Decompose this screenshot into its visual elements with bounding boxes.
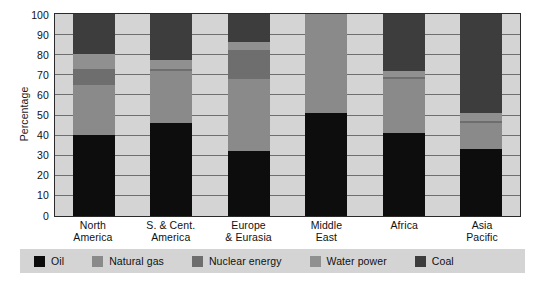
bar-segment-water-power[interactable] [228, 42, 270, 50]
bar-segment-natural-gas[interactable] [460, 123, 502, 149]
x-axis-tick-label-line [365, 232, 443, 244]
bar-group [55, 14, 520, 216]
bar-segment-natural-gas[interactable] [228, 79, 270, 152]
bar-segment-nuclear-energy[interactable] [228, 50, 270, 78]
legend-label: Water power [327, 255, 387, 267]
x-axis-tick-label: NorthAmerica [54, 220, 132, 243]
legend-item-oil[interactable]: Oil [34, 255, 64, 267]
bar-slot [365, 14, 443, 216]
legend-swatch-icon [34, 256, 45, 267]
x-axis-tick-label: S. & Cent.America [132, 220, 210, 243]
x-axis-tick-label-line: & Eurasia [210, 232, 288, 244]
bar-segment-water-power[interactable] [460, 113, 502, 121]
stacked-bar[interactable] [150, 14, 192, 216]
bar-slot [55, 14, 133, 216]
y-axis-tick-label: 0 [3, 210, 49, 222]
bar-slot [443, 14, 521, 216]
stacked-bar[interactable] [228, 14, 270, 216]
bar-segment-oil[interactable] [460, 149, 502, 216]
legend-label: Nuclear energy [209, 255, 282, 267]
x-axis-tick-label-line: America [132, 232, 210, 244]
x-axis-tick-labels: NorthAmericaS. & Cent.AmericaEurope& Eur… [54, 220, 521, 243]
bar-segment-oil[interactable] [228, 151, 270, 216]
bar-segment-oil[interactable] [73, 135, 115, 216]
plot-area [54, 13, 521, 217]
y-axis-tick-labels: 0102030405060708090100 [0, 13, 49, 217]
bar-slot [288, 14, 366, 216]
bar-segment-coal[interactable] [150, 14, 192, 60]
stacked-bar[interactable] [73, 14, 115, 216]
legend-swatch-icon [92, 256, 103, 267]
x-axis-tick-label-line: America [54, 232, 132, 244]
legend-item-coal[interactable]: Coal [415, 255, 454, 267]
bar-segment-coal[interactable] [460, 14, 502, 113]
legend-swatch-icon [192, 256, 203, 267]
bar-segment-oil[interactable] [383, 133, 425, 216]
bar-segment-natural-gas[interactable] [383, 79, 425, 134]
y-axis-tick-label: 100 [3, 9, 49, 21]
legend-item-water-power[interactable]: Water power [310, 255, 387, 267]
bar-segment-oil[interactable] [305, 113, 347, 216]
y-axis-tick-label: 50 [3, 109, 49, 121]
y-axis-tick-label: 60 [3, 89, 49, 101]
y-axis-tick-label: 70 [3, 69, 49, 81]
y-axis-tick-label: 90 [3, 29, 49, 41]
legend-label: Natural gas [109, 255, 164, 267]
bar-segment-water-power[interactable] [73, 54, 115, 68]
x-axis-tick-label-line: North [54, 220, 132, 232]
x-axis-tick-label-line: East [287, 232, 365, 244]
y-axis-tick-label: 80 [3, 49, 49, 61]
bar-segment-coal[interactable] [73, 14, 115, 54]
legend-swatch-icon [415, 256, 426, 267]
stacked-bar-chart: Percentage 0102030405060708090100 NorthA… [0, 0, 541, 286]
y-axis-tick-label: 20 [3, 169, 49, 181]
bar-segment-oil[interactable] [150, 123, 192, 216]
bar-slot [133, 14, 211, 216]
bar-segment-water-power[interactable] [150, 60, 192, 68]
stacked-bar[interactable] [460, 14, 502, 216]
x-axis-tick-label-line: Middle [287, 220, 365, 232]
x-axis-tick-label: MiddleEast [287, 220, 365, 243]
x-axis-tick-label: Africa [365, 220, 443, 243]
bar-slot [210, 14, 288, 216]
bar-segment-natural-gas[interactable] [73, 85, 115, 136]
legend-item-nuclear-energy[interactable]: Nuclear energy [192, 255, 282, 267]
bar-segment-natural-gas[interactable] [150, 71, 192, 124]
x-axis-tick-label-line: Africa [365, 220, 443, 232]
x-axis-tick-label-line: Europe [210, 220, 288, 232]
legend-label: Oil [51, 255, 64, 267]
bar-segment-natural-gas[interactable] [305, 14, 347, 113]
y-axis-tick-label: 30 [3, 149, 49, 161]
x-axis-tick-label: Europe& Eurasia [210, 220, 288, 243]
x-axis-tick-label: AsiaPacific [443, 220, 521, 243]
x-axis-tick-label-line: S. & Cent. [132, 220, 210, 232]
legend-item-natural-gas[interactable]: Natural gas [92, 255, 164, 267]
legend-label: Coal [432, 255, 454, 267]
legend: OilNatural gasNuclear energyWater powerC… [20, 249, 525, 273]
x-axis-tick-label-line: Asia [443, 220, 521, 232]
y-axis-tick-label: 40 [3, 129, 49, 141]
stacked-bar[interactable] [305, 14, 347, 216]
bar-segment-nuclear-energy[interactable] [73, 69, 115, 85]
legend-swatch-icon [310, 256, 321, 267]
stacked-bar[interactable] [383, 14, 425, 216]
x-axis-tick-label-line: Pacific [443, 232, 521, 244]
bar-segment-coal[interactable] [228, 14, 270, 42]
y-axis-tick-label: 10 [3, 189, 49, 201]
bar-segment-coal[interactable] [383, 14, 425, 71]
